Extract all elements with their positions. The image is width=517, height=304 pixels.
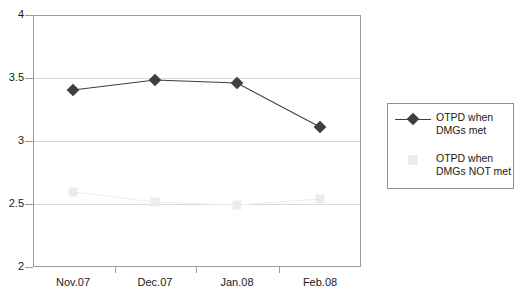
y-axis-label: 2.5 [0,198,24,209]
chart-screenshot: 4 3.5 3 2.5 2 Nov.07 Dec.07 Jan.08 Feb.0… [0,0,517,304]
y-axis-label: 3.5 [0,72,24,83]
gridline [34,15,360,16]
data-point-marker [233,201,242,210]
y-axis-label: 2 [0,261,24,272]
y-axis-tick [25,78,33,79]
x-axis-label: Jan.08 [202,276,272,288]
y-axis-label: 4 [0,9,24,20]
gridline [34,141,360,142]
y-axis-tick [25,141,33,142]
y-axis: 4 3.5 3 2.5 2 [0,0,24,304]
data-point-marker [69,188,78,197]
x-axis-tick [279,267,280,273]
data-point-marker [316,195,325,204]
gridline [34,204,360,205]
y-axis-tick [25,15,33,16]
diamond-marker-icon [395,113,431,127]
y-axis-label: 3 [0,135,24,146]
plot-area [33,15,361,267]
x-axis-tick [196,267,197,273]
square-marker-icon [395,154,431,168]
x-axis-label: Dec.07 [120,276,190,288]
y-axis-tick [25,267,33,268]
gridline [34,78,360,79]
data-point-marker [151,198,160,207]
x-axis-label: Nov.07 [38,276,108,288]
x-axis-tick [115,267,116,273]
x-axis-label: Feb.08 [285,276,355,288]
legend-entry: OTPD when DMGs met [388,113,513,143]
legend: OTPD when DMGs met OTPD when DMGs NOT me… [387,103,514,189]
legend-entry-label: OTPD when DMGs met [436,111,493,137]
y-axis-tick [25,204,33,205]
legend-entry: OTPD when DMGs NOT met [388,154,513,184]
legend-entry-label: OTPD when DMGs NOT met [436,152,511,178]
